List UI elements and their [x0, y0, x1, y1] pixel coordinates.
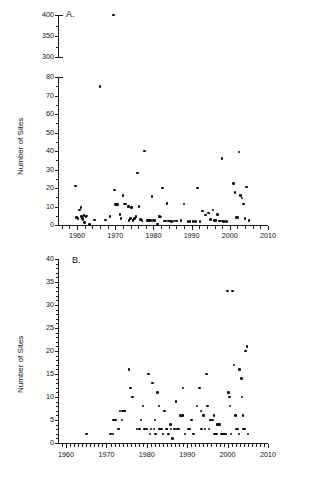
panel-a-y-tick-350 [55, 36, 59, 37]
panel-b-y-ticklabel-5: 5 [30, 416, 54, 423]
panel-b-y-minor-tick [56, 287, 59, 288]
panel-a-x-minor-tick [207, 226, 208, 229]
panel-a-y-ticklabel-80: 80 [30, 73, 54, 80]
panel-b-data-point [154, 419, 157, 422]
panel-b-x-minor-tick [240, 444, 241, 447]
panel-b-x-minor-tick [264, 444, 265, 447]
panel-b-x-minor-tick [159, 444, 160, 447]
panel-a-data-point [130, 206, 133, 209]
panel-a-y-minor-tick [56, 26, 59, 27]
panel-a-x-tick-1980 [153, 226, 154, 230]
panel-b-y-minor-tick [56, 300, 59, 301]
panel-b-x-minor-tick [143, 444, 144, 447]
panel-b-data-point [204, 428, 207, 431]
panel-b-data-point [238, 368, 241, 371]
panel-b-y-ticklabel-0: 0 [30, 439, 54, 446]
panel-b-y-minor-tick [56, 402, 59, 403]
panel-b-data-point [128, 368, 131, 371]
panel-b-data-point [230, 433, 233, 436]
panel-b-data-point [227, 391, 230, 394]
panel-a-x-minor-tick [100, 226, 101, 229]
panel-a-x-ticklabel-1970: 1970 [101, 232, 129, 239]
panel-a-x-minor-tick [62, 226, 63, 229]
panel-a-data-point [154, 219, 157, 222]
panel-a-y-minor-tick [56, 86, 59, 87]
panel-b-x-ticklabel-2000: 2000 [214, 451, 242, 458]
panel-b-x-minor-tick [216, 444, 217, 447]
panel-b-data-point [112, 433, 115, 436]
panel-b-x-minor-tick [167, 444, 168, 447]
panel-a-data-point [138, 205, 141, 208]
panel-b-x-ticklabel-1980: 1980 [133, 451, 161, 458]
panel-b-data-point [175, 400, 178, 403]
panel-b-y-minor-tick [56, 434, 59, 435]
panel-b-data-point [149, 433, 152, 436]
panel-a-y-ticklabel-0: 0 [30, 221, 54, 228]
panel-b-y-tick-10 [55, 397, 59, 398]
panel-b-y-minor-tick [56, 337, 59, 338]
panel-b-data-point [226, 290, 229, 293]
panel-b-x-minor-tick [70, 444, 71, 447]
panel-b-x-minor-tick [252, 444, 253, 447]
panel-a-y-tick-20 [55, 188, 59, 189]
panel-b-y-minor-tick [56, 360, 59, 361]
panel-b-data-point [200, 428, 203, 431]
panel-a-data-point [83, 221, 86, 224]
panel-a-y-minor-tick [56, 216, 59, 217]
panel-b-x-tick-1980 [147, 444, 148, 448]
panel-a-x-ticklabel-1980: 1980 [139, 232, 167, 239]
panel-b-data-point [160, 428, 163, 431]
panel-a-data-point [212, 209, 215, 212]
panel-b-y-minor-tick [56, 365, 59, 366]
panel-a-x-minor-tick [222, 226, 223, 229]
panel-a-data-point [78, 209, 81, 212]
panel-b-y-minor-tick [56, 425, 59, 426]
panel-b-x-tick-2000 [228, 444, 229, 448]
panel-b-data-point [212, 419, 215, 422]
panel-a-y-minor-tick [56, 179, 59, 180]
panel-b-y-tick-15 [55, 374, 59, 375]
panel-b-data-point [173, 428, 176, 431]
panel-a-data-point [241, 197, 244, 200]
panel-a-x-ticklabel-1960: 1960 [63, 232, 91, 239]
panel-a-x-minor-tick [260, 226, 261, 229]
panel-b-y-tick-25 [55, 328, 59, 329]
panel-b-x-minor-tick [102, 444, 103, 447]
panel-a-data-point [136, 172, 139, 175]
panel-b-data-point [213, 414, 216, 417]
panel-b-data-point [147, 373, 150, 376]
panel-a-data-point [127, 205, 130, 208]
panel-a-x-minor-tick [237, 226, 238, 229]
panel-b-x-minor-tick [207, 444, 208, 447]
panel-b-x-minor-tick [74, 444, 75, 447]
panel-b-x-minor-tick [248, 444, 249, 447]
panel-b-data-point [190, 419, 193, 422]
panel-b-y-minor-tick [56, 356, 59, 357]
panel-b-data-point [129, 387, 132, 390]
panel-a-data-point [242, 203, 245, 206]
panel-b-x-minor-tick [199, 444, 200, 447]
panel-a-data-point [141, 219, 144, 222]
panel-b-x-minor-tick [203, 444, 204, 447]
panel-a-y-ticklabel-40: 40 [30, 147, 54, 154]
panel-b-x-minor-tick [191, 444, 192, 447]
panel-b-data-point [154, 433, 157, 436]
panel-b-x-ticklabel-2010: 2010 [254, 451, 276, 458]
panel-b-data-point [228, 396, 231, 399]
panel-a-data-point [80, 206, 83, 209]
panel-b-data-point [182, 387, 185, 390]
panel-a-y-minor-tick [56, 142, 59, 143]
panel-b-data-point [233, 364, 236, 367]
panel-a-y-tick-70 [55, 96, 59, 97]
panel-a-x-minor-tick [199, 226, 200, 229]
panel-a-x-tick-2010 [268, 226, 269, 230]
panel-a-data-point [161, 187, 164, 190]
panel-b-y-tick-30 [55, 305, 59, 306]
panel-a-y-minor-tick [56, 160, 59, 161]
panel-b-data-point [158, 405, 161, 408]
panel-b-data-point [237, 428, 240, 431]
panel-a-y-tick-300 [55, 57, 59, 58]
panel-b-data-point [153, 428, 156, 431]
panel-b-x-minor-tick [163, 444, 164, 447]
panel-a-x-minor-tick [253, 226, 254, 229]
